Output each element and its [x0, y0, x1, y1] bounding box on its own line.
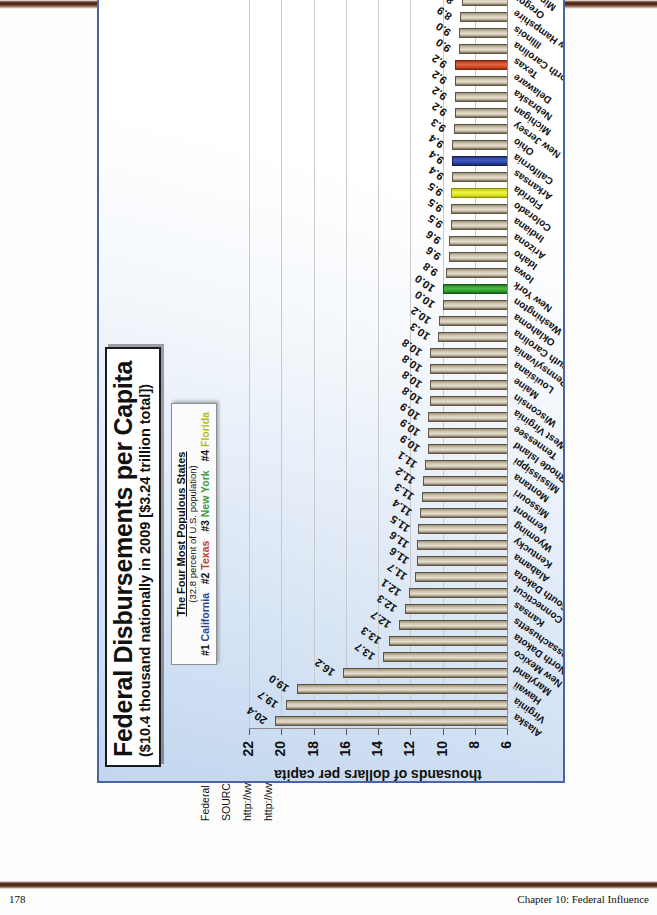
legend-state-texas: Texas	[199, 541, 211, 570]
bar-new-jersey[interactable]	[454, 124, 507, 134]
bar-massachusetts[interactable]	[399, 620, 507, 630]
bar-iowa[interactable]	[446, 268, 507, 278]
bar-north-carolina[interactable]	[459, 44, 507, 54]
legend-state-florida: Florida	[199, 412, 211, 447]
bar-maine[interactable]	[430, 380, 507, 390]
page-rule-bottom	[0, 881, 657, 890]
bar-wisconsin[interactable]	[430, 396, 507, 406]
bar-delaware[interactable]	[455, 76, 507, 86]
page-title: Federal Disbursements per Capita	[111, 357, 137, 757]
legend-rank-2: #2	[199, 573, 211, 585]
bar-south-dakota[interactable]	[415, 572, 507, 582]
legend-entries: #1 California #2 Texas #3 New York #4 Fl…	[199, 410, 211, 658]
bar-vermont[interactable]	[420, 508, 507, 518]
bar-washington[interactable]	[443, 300, 508, 310]
axis-tick	[475, 729, 476, 735]
bar-kansas[interactable]	[405, 604, 507, 614]
axis-tick	[249, 729, 250, 735]
bar-west-virginia[interactable]	[428, 412, 507, 422]
axis-tick-label: 18	[305, 741, 321, 757]
axis-tick-label: 6	[498, 741, 514, 749]
legend: The Four Most Populous States (32.8 perc…	[171, 403, 217, 665]
legend-title: The Four Most Populous States	[175, 410, 187, 658]
legend-state-california: California	[199, 593, 211, 641]
category-axis	[507, 0, 508, 729]
legend-state-new-york: New York	[199, 470, 211, 517]
axis-tick	[507, 729, 508, 735]
bar-connecticut[interactable]	[409, 588, 507, 598]
bar-rhode-island[interactable]	[428, 444, 507, 454]
axis-tick	[346, 729, 347, 735]
plot-area: thousands of dollars per capita 68101214…	[249, 0, 507, 729]
bar-idaho[interactable]	[449, 252, 507, 262]
grid-line	[281, 0, 282, 729]
bar-california[interactable]	[452, 156, 507, 166]
y-axis-label: thousands of dollars per capita	[274, 767, 482, 783]
grid-line	[346, 0, 347, 729]
bar-michigan[interactable]	[455, 108, 507, 118]
bar-north-dakota[interactable]	[389, 636, 507, 646]
bar-arizona[interactable]	[449, 236, 507, 246]
axis-tick	[443, 729, 444, 735]
axis-tick	[314, 729, 315, 735]
bar-louisiana[interactable]	[430, 364, 507, 374]
bar-pennsylvania[interactable]	[430, 348, 507, 358]
scanned-page: 178 Chapter 10: Federal Influence Federa…	[0, 0, 657, 915]
axis-tick	[410, 729, 411, 735]
bar-new-mexico[interactable]	[383, 652, 507, 662]
chart-subtitle: ($10.4 thousand nationally in 2009 [$3.2…	[138, 357, 153, 757]
bar-tennessee[interactable]	[428, 428, 507, 438]
axis-tick-label: 8	[466, 741, 482, 749]
axis-tick-label: 20	[272, 741, 288, 757]
bar-mississippi[interactable]	[425, 460, 507, 470]
bar-ohio[interactable]	[452, 140, 507, 150]
axis-tick-label: 10	[434, 741, 450, 757]
legend-note: (32.8 percent of U.S. population)	[187, 410, 198, 658]
bar-wyoming[interactable]	[418, 524, 507, 534]
bar-indiana[interactable]	[451, 220, 507, 230]
legend-rank-4: #4	[199, 450, 211, 462]
axis-tick	[378, 729, 379, 735]
legend-rank-1: #1	[199, 644, 211, 656]
bar-oregon[interactable]	[462, 0, 507, 6]
chart-title-box: Federal Disbursements per Capita ($10.4 …	[105, 347, 161, 767]
grid-line	[249, 0, 250, 729]
bar-arkansas[interactable]	[452, 172, 507, 182]
bar-virginia[interactable]	[286, 700, 507, 710]
bar-new-york[interactable]	[443, 284, 508, 294]
chapter-label: Chapter 10: Federal Influence	[517, 893, 649, 905]
bar-missouri[interactable]	[422, 492, 507, 502]
page-number: 178	[9, 893, 26, 905]
chart-slide: Federal Disbursements per Capita ($10.4 …	[97, 0, 565, 783]
bar-montana[interactable]	[423, 476, 507, 486]
axis-tick-label: 22	[240, 741, 256, 757]
bar-oklahoma[interactable]	[439, 316, 507, 326]
bar-texas[interactable]	[455, 60, 507, 70]
axis-tick-label: 14	[369, 741, 385, 757]
bar-kentucky[interactable]	[417, 540, 507, 550]
grid-line	[314, 0, 315, 729]
bar-new-hampshire[interactable]	[460, 12, 507, 22]
bar-alaska[interactable]	[275, 716, 507, 726]
bar-hawaii[interactable]	[297, 684, 507, 694]
bar-alabama[interactable]	[417, 556, 507, 566]
bar-illinois[interactable]	[459, 28, 507, 38]
axis-tick-label: 16	[337, 741, 353, 757]
bar-maryland[interactable]	[343, 668, 507, 678]
axis-tick	[281, 729, 282, 735]
slide-container: Federal Disbursements per Capita ($10.4 …	[97, 0, 565, 783]
bar-colorado[interactable]	[451, 204, 507, 214]
axis-tick-label: 12	[401, 741, 417, 757]
bar-florida[interactable]	[451, 188, 507, 198]
bar-nebraska[interactable]	[455, 92, 507, 102]
bar-south-carolina[interactable]	[438, 332, 507, 342]
legend-rank-3: #3	[199, 520, 211, 532]
